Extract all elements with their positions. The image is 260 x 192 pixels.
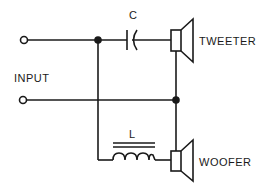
crossover-circuit-diagram: C TWEETER INPUT L WOOFER [0,0,260,192]
tweeter-speaker-icon [171,19,193,62]
woofer-label: WOOFER [199,156,252,168]
inductor-symbol [113,143,155,160]
tweeter-label: TWEETER [199,35,256,47]
inductor-label: L [129,128,136,140]
woofer-speaker-icon [171,140,193,181]
input-terminal-bottom [20,97,27,104]
capacitor-label: C [129,9,137,21]
input-label: INPUT [14,72,50,84]
input-terminal-top [21,37,28,44]
